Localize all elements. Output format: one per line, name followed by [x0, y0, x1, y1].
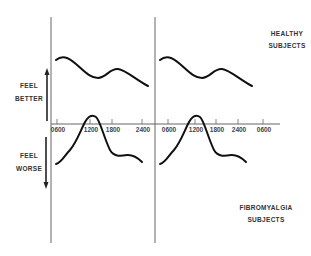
fibromyalgia-label-line2: SUBJECTS	[247, 216, 284, 223]
tick-marks	[57, 119, 263, 124]
feel-better-arrow-icon	[45, 68, 50, 121]
fibromyalgia-curve-day1	[56, 116, 142, 164]
healthy-label-line2: SUBJECTS	[268, 42, 305, 49]
tick-label: 1800	[106, 126, 121, 133]
tick-label: 2400	[136, 126, 151, 133]
tick-label: 0600	[162, 126, 177, 133]
tick-label: 0600	[51, 126, 66, 133]
feel-worse-label-line2: WORSE	[16, 165, 42, 172]
fibromyalgia-label-line1: FIBROMYALGIA	[239, 204, 292, 211]
healthy-label-line1: HEALTHY	[271, 30, 304, 37]
circadian-diagram: 060012001800240006001200180024000600 FEE…	[0, 0, 311, 256]
tick-label: 1200	[189, 126, 204, 133]
fibromyalgia-curve-day2	[160, 116, 246, 164]
tick-labels: 060012001800240006001200180024000600	[51, 126, 272, 133]
healthy-curve-day2	[160, 57, 252, 86]
tick-label: 1800	[210, 126, 225, 133]
healthy-curve-day1	[56, 57, 148, 86]
tick-label: 1200	[84, 126, 99, 133]
tick-label: 0600	[257, 126, 272, 133]
feel-worse-arrow-icon	[44, 137, 49, 189]
feel-better-label-line1: FEEL	[20, 82, 38, 89]
tick-label: 2400	[232, 126, 247, 133]
feel-better-label-line2: BETTER	[15, 95, 43, 102]
feel-worse-label-line1: FEEL	[20, 152, 38, 159]
